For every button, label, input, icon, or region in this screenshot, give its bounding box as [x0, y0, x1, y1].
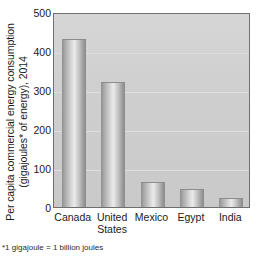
x-axis-tick-label-line: India [211, 211, 250, 223]
bar [62, 39, 86, 207]
y-axis-title-line-1: Per capita commercial energy consumption [4, 23, 17, 220]
y-axis-tick-label: 200 [26, 125, 51, 135]
x-axis-tick-label: Canada [53, 211, 92, 223]
y-axis-tick-label: 100 [26, 164, 51, 174]
bar [101, 82, 125, 207]
footnote: *1 gigajoule = 1 billion joules [2, 243, 103, 253]
bar-series [54, 14, 249, 207]
bar [219, 198, 243, 207]
x-axis-tick-labels: CanadaUnitedStatesMexicoEgyptIndia [53, 211, 250, 243]
x-axis-tick-label: India [211, 211, 250, 223]
x-axis-tick-label-line: Mexico [132, 211, 171, 223]
y-axis-tick-labels: 5004003002001000 [26, 0, 51, 256]
x-axis-tick-label: Egypt [171, 211, 210, 223]
y-axis-tick-label: 500 [26, 8, 51, 18]
x-axis-tick-label-line: States [92, 223, 131, 235]
x-axis-tick-label-line: United [92, 211, 131, 223]
plot-area [53, 13, 250, 208]
bar [141, 182, 165, 207]
y-axis-tick-label: 0 [26, 203, 51, 213]
x-axis-tick-label: Mexico [132, 211, 171, 223]
y-axis-tick-label: 300 [26, 86, 51, 96]
x-axis-tick-label-line: Egypt [171, 211, 210, 223]
x-axis-tick-label-line: Canada [53, 211, 92, 223]
bar [180, 189, 204, 207]
x-axis-tick-label: UnitedStates [92, 211, 131, 235]
bar-chart-figure: Per capita commercial energy consumption… [0, 0, 258, 256]
y-axis-tick-label: 400 [26, 47, 51, 57]
